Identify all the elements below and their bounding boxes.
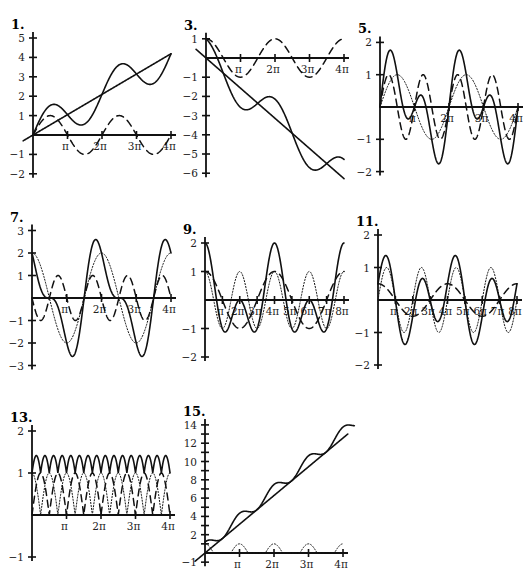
x-tick-label: π bbox=[234, 558, 241, 570]
figure-canvas: 1.54321−1−2π2π3π4π3.1−1−2−3−4−5−6π2π3π4π… bbox=[0, 0, 530, 577]
plot-13: 13.21−1π2π3π4π bbox=[9, 410, 175, 563]
y-tick-label: 1 bbox=[17, 270, 24, 282]
plot-title: 9. bbox=[183, 222, 197, 237]
plot-7: 7.321−1−2−3π2π3π4π bbox=[9, 210, 176, 372]
y-tick-label: 10 bbox=[184, 456, 197, 468]
x-tick-label: 3π bbox=[128, 140, 142, 152]
plot-title: 13. bbox=[10, 410, 33, 425]
series-solid-curve bbox=[32, 456, 170, 473]
y-tick-label: −6 bbox=[183, 167, 199, 179]
y-tick-label: −3 bbox=[183, 110, 198, 122]
x-tick-label: 4π bbox=[162, 303, 176, 315]
y-tick-label: 2 bbox=[190, 237, 197, 249]
plot-15: 15.1412108642−1π2π3π4π bbox=[182, 404, 355, 570]
x-tick-label: 2π bbox=[93, 140, 107, 152]
y-tick-label: −4 bbox=[183, 129, 199, 141]
x-tick-label: π bbox=[62, 140, 69, 152]
y-tick-label: −1 bbox=[9, 551, 24, 563]
x-tick-label: π bbox=[61, 303, 68, 315]
y-tick-label: −1 bbox=[357, 133, 372, 145]
y-tick-label: 2 bbox=[365, 36, 372, 48]
y-tick-label: 5 bbox=[18, 32, 25, 44]
y-tick-label: 4 bbox=[190, 510, 197, 522]
x-tick-label: 2π bbox=[266, 63, 280, 75]
y-tick-label: 2 bbox=[17, 425, 24, 437]
series-solid-curve bbox=[23, 54, 171, 141]
plot-3: 3.1−1−2−3−4−5−6π2π3π4π bbox=[183, 18, 349, 179]
y-tick-label: 1 bbox=[190, 266, 197, 278]
plot-5: 5.21−1−2π2π3π4π bbox=[357, 21, 523, 177]
x-tick-label: π bbox=[61, 520, 68, 532]
plot-11: 11.21−1−2π2π3π4π5π6π7π8π bbox=[355, 214, 522, 371]
y-tick-label: −2 bbox=[357, 166, 372, 178]
y-tick-label: −3 bbox=[9, 360, 24, 372]
x-tick-label: 3π bbox=[301, 63, 315, 75]
y-tick-label: 1 bbox=[365, 69, 372, 81]
y-tick-label: −2 bbox=[9, 337, 24, 349]
y-tick-label: −1 bbox=[355, 327, 370, 339]
x-tick-label: 4π bbox=[334, 558, 348, 570]
x-tick-label: 4π bbox=[335, 63, 349, 75]
y-tick-label: 3 bbox=[17, 225, 24, 237]
x-tick-label: 4π bbox=[161, 520, 175, 532]
series-solid-curve bbox=[205, 243, 344, 332]
y-tick-label: −1 bbox=[9, 315, 24, 327]
y-tick-label: 3 bbox=[18, 71, 25, 83]
x-tick-label: 8π bbox=[335, 305, 349, 317]
y-tick-label: 8 bbox=[190, 474, 197, 486]
x-tick-label: 3π bbox=[127, 520, 141, 532]
x-tick-label: 2π bbox=[265, 558, 279, 570]
plot-9: 9.21−1−2π2π3π4π5π6π7π8π bbox=[182, 222, 349, 363]
y-tick-label: −2 bbox=[182, 351, 197, 363]
y-tick-label: −1 bbox=[182, 556, 197, 568]
y-tick-label: 6 bbox=[190, 492, 197, 504]
y-tick-label: −1 bbox=[10, 148, 25, 160]
y-tick-label: 1 bbox=[17, 467, 24, 479]
y-tick-label: 2 bbox=[363, 229, 370, 241]
y-tick-label: −1 bbox=[183, 71, 198, 83]
y-tick-label: 12 bbox=[184, 437, 197, 449]
y-tick-label: −1 bbox=[182, 323, 197, 335]
x-tick-label: π bbox=[235, 63, 242, 75]
y-tick-label: 2 bbox=[190, 529, 197, 541]
plot-1: 1.54321−1−2π2π3π4π bbox=[10, 17, 176, 180]
y-tick-label: −2 bbox=[183, 90, 198, 102]
x-tick-label: 3π bbox=[300, 558, 314, 570]
y-tick-label: 2 bbox=[17, 247, 24, 259]
y-tick-label: 2 bbox=[18, 90, 25, 102]
y-tick-label: −2 bbox=[10, 168, 25, 180]
y-tick-label: 4 bbox=[18, 51, 25, 63]
x-tick-label: 4π bbox=[266, 305, 280, 317]
y-tick-label: 1 bbox=[363, 262, 370, 274]
x-tick-label: 4π bbox=[162, 140, 176, 152]
plot-title: 3. bbox=[184, 18, 198, 33]
y-tick-label: −2 bbox=[355, 359, 370, 371]
series-solid-curve bbox=[205, 425, 354, 542]
y-tick-label: 1 bbox=[18, 110, 25, 122]
y-tick-label: 1 bbox=[191, 33, 198, 45]
plot-title: 11. bbox=[356, 214, 379, 229]
plot-title: 15. bbox=[183, 404, 206, 419]
plot-title: 5. bbox=[358, 21, 372, 36]
y-tick-label: 14 bbox=[184, 419, 198, 431]
y-tick-label: −5 bbox=[183, 148, 198, 160]
plot-title: 7. bbox=[10, 210, 24, 225]
plot-title: 1. bbox=[11, 17, 25, 32]
x-tick-label: 2π bbox=[92, 520, 106, 532]
